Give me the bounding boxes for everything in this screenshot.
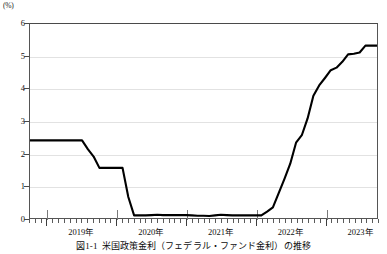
x-axis-month-tick — [128, 219, 129, 223]
y-axis-tick-label: 3 — [3, 117, 25, 126]
x-axis-month-tick — [41, 219, 42, 223]
chart-figure: (%) 0123456 2019年2020年2021年2022年2023年 図1… — [0, 0, 387, 254]
y-axis-tick-label: 2 — [3, 150, 25, 159]
x-axis-month-tick — [331, 219, 332, 223]
x-axis-month-tick — [250, 219, 251, 223]
x-axis-month-tick — [151, 219, 152, 223]
x-axis-month-tick — [221, 219, 222, 223]
figure-number: 図1-1 — [76, 241, 97, 251]
x-axis-month-tick — [233, 219, 234, 223]
x-axis-month-tick — [140, 219, 141, 223]
x-axis-month-tick — [361, 219, 362, 223]
y-axis-tick-label: 6 — [3, 19, 25, 28]
x-axis-month-tick — [204, 219, 205, 223]
data-line-layer — [30, 24, 377, 218]
x-axis-tick-label: 2021年 — [208, 228, 234, 237]
x-axis-month-tick — [209, 219, 210, 223]
x-axis-month-tick — [70, 219, 71, 223]
x-axis-month-tick — [227, 219, 228, 223]
y-axis-unit-label: (%) — [3, 1, 14, 10]
x-axis-month-tick — [355, 219, 356, 223]
x-axis-month-tick — [343, 219, 344, 223]
figure-title: 米国政策金利（フェデラル・ファンド金利）の推移 — [102, 241, 311, 251]
x-axis-month-tick — [297, 219, 298, 223]
x-axis-month-tick — [93, 219, 94, 223]
x-axis-month-tick — [35, 219, 36, 223]
x-axis-month-tick — [273, 219, 274, 223]
x-axis-month-tick — [262, 219, 263, 223]
x-axis-month-tick — [267, 219, 268, 223]
x-axis-tick-label: 2022年 — [278, 228, 304, 237]
x-axis-tick-group — [29, 219, 378, 227]
x-axis-year-tick — [256, 219, 257, 226]
x-axis-month-tick — [99, 219, 100, 223]
x-axis-month-tick — [192, 219, 193, 223]
x-axis-month-tick — [81, 219, 82, 223]
y-axis-tick-label: 1 — [3, 182, 25, 191]
x-axis-month-tick — [58, 219, 59, 223]
x-axis-month-tick — [349, 219, 350, 223]
x-axis-month-tick — [337, 219, 338, 223]
x-axis-month-tick — [76, 219, 77, 223]
x-axis-month-tick — [180, 219, 181, 223]
x-axis-month-tick — [244, 219, 245, 223]
x-axis-month-tick — [238, 219, 239, 223]
x-axis-month-tick — [215, 219, 216, 223]
x-axis-year-tick — [186, 219, 187, 226]
x-axis-month-tick — [320, 219, 321, 223]
x-axis-month-tick — [110, 219, 111, 223]
y-axis-tick-label: 0 — [3, 215, 25, 224]
x-axis-month-tick — [378, 219, 379, 223]
x-axis-month-tick — [372, 219, 373, 223]
x-axis-month-tick — [302, 219, 303, 223]
x-axis-month-tick — [29, 219, 30, 223]
x-axis-month-tick — [169, 219, 170, 223]
plot-area — [29, 23, 378, 219]
y-axis-tick-label: 5 — [3, 52, 25, 61]
x-axis-month-tick — [87, 219, 88, 223]
x-axis-tick-label: 2019年 — [68, 228, 94, 237]
x-axis-month-tick — [291, 219, 292, 223]
x-axis-month-tick — [279, 219, 280, 223]
x-axis-year-tick — [116, 219, 117, 226]
x-axis-month-tick — [145, 219, 146, 223]
policy-rate-line — [30, 46, 377, 216]
x-axis-month-tick — [366, 219, 367, 223]
y-axis-tick-label: 4 — [3, 84, 25, 93]
x-axis-tick-label: 2020年 — [138, 228, 164, 237]
figure-caption: 図1-1米国政策金利（フェデラル・ファンド金利）の推移 — [0, 241, 387, 252]
x-axis-month-tick — [285, 219, 286, 223]
x-axis-month-tick — [163, 219, 164, 223]
x-axis-month-tick — [314, 219, 315, 223]
x-axis-month-tick — [174, 219, 175, 223]
x-axis-month-tick — [122, 219, 123, 223]
x-axis-month-tick — [134, 219, 135, 223]
x-axis-year-tick — [46, 219, 47, 226]
x-axis-month-tick — [52, 219, 53, 223]
x-axis-tick-label: 2023年 — [348, 228, 374, 237]
x-axis-month-tick — [157, 219, 158, 223]
x-axis-month-tick — [64, 219, 65, 223]
x-axis-label-group: 2019年2020年2021年2022年2023年 — [0, 228, 387, 240]
y-axis-tick-group: 0123456 — [0, 23, 29, 219]
x-axis-month-tick — [308, 219, 309, 223]
x-axis-month-tick — [105, 219, 106, 223]
x-axis-month-tick — [198, 219, 199, 223]
x-axis-year-tick — [326, 219, 327, 226]
